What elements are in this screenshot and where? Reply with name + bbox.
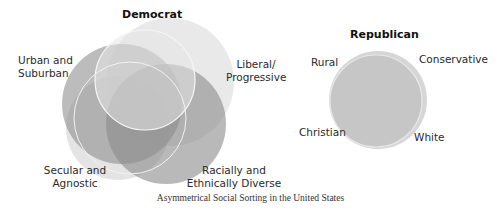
label-line: Racially and	[184, 164, 284, 177]
label-line: Agnostic	[40, 177, 110, 190]
label-line: Suburban	[18, 67, 73, 80]
label-secular-agnostic: Secular and Agnostic	[40, 164, 110, 190]
circle-top-light	[95, 30, 195, 130]
label-line: Ethnically Diverse	[184, 177, 284, 190]
label-urban-suburban: Urban and Suburban	[18, 54, 73, 80]
label-christian: Christian	[299, 126, 346, 139]
republican-title: Republican	[350, 28, 419, 41]
label-liberal-progressive: Liberal/ Progressive	[226, 58, 286, 84]
label-line: Urban and	[18, 54, 73, 67]
figure-caption: Asymmetrical Social Sorting in the Unite…	[0, 193, 501, 203]
democrat-title: Democrat	[122, 8, 182, 21]
label-white: White	[414, 131, 445, 144]
label-line: Liberal/	[226, 58, 286, 71]
label-line: Progressive	[226, 71, 286, 84]
label-rural: Rural	[311, 56, 338, 69]
label-line: Secular and	[40, 164, 110, 177]
democrat-venn	[62, 18, 234, 184]
label-racially-diverse: Racially and Ethnically Diverse	[184, 164, 284, 190]
label-conservative: Conservative	[419, 53, 488, 66]
